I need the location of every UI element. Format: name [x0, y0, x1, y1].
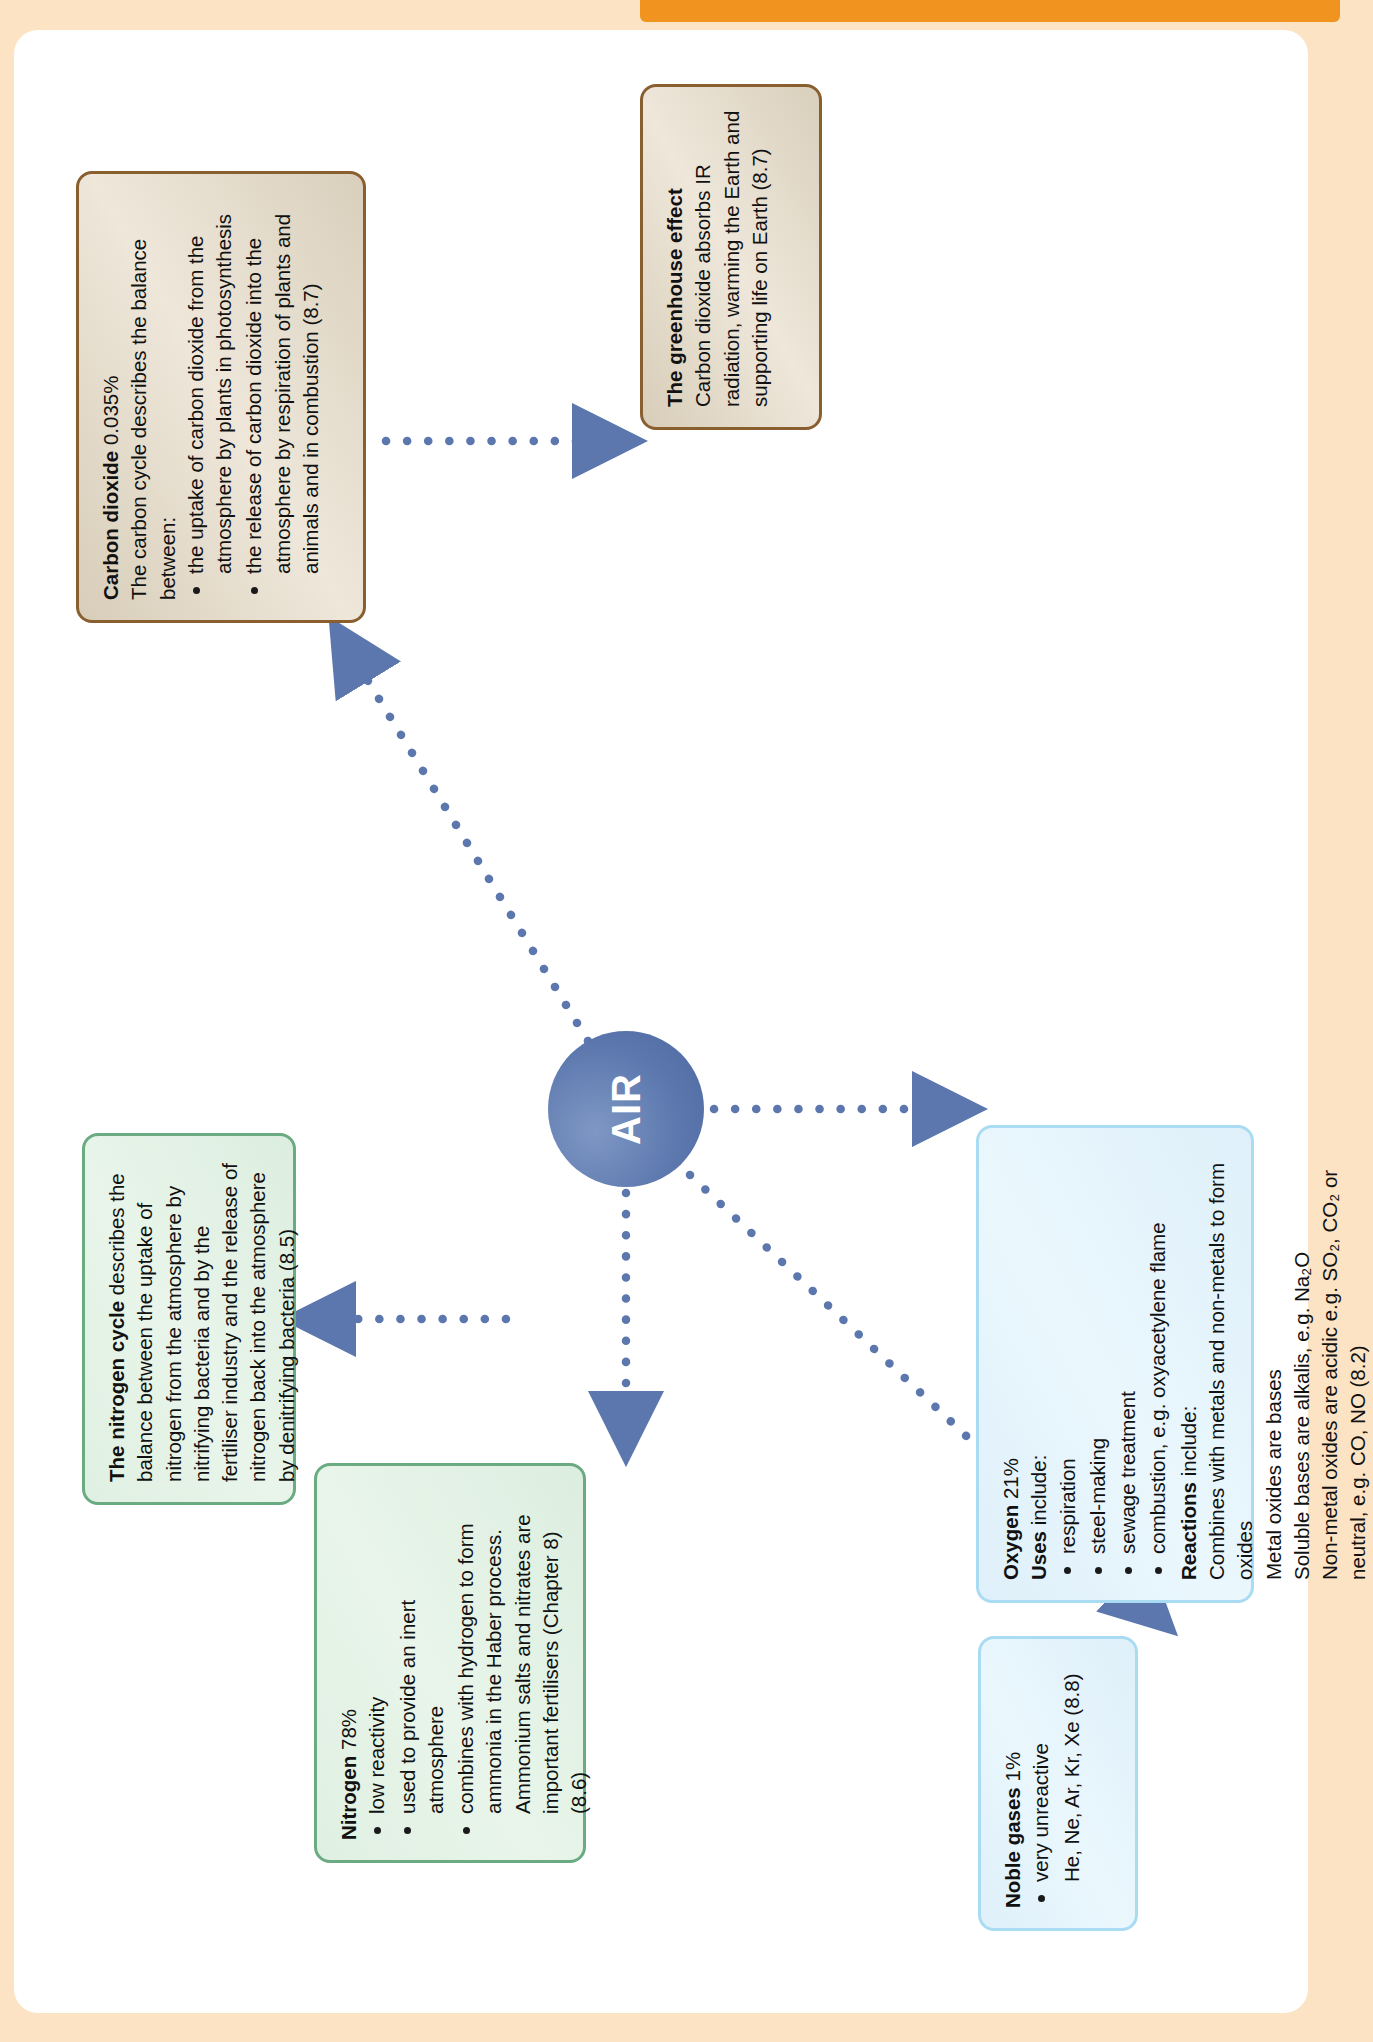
- nitrogen-bullet-list: low reactivity used to provide an inert …: [363, 1486, 593, 1840]
- bullet-dot-icon: [374, 1827, 381, 1834]
- oxygen-uses-rest: include:: [1027, 1455, 1050, 1531]
- greenhouse-heading: The greenhouse effect: [661, 107, 689, 407]
- nitrogen-bullet-3: combines with hydrogen to form ammonia i…: [454, 1514, 590, 1814]
- carbon-dioxide-bullet-2: the release of carbon dioxide into the a…: [242, 214, 322, 574]
- oxygen-title: Oxygen: [999, 1505, 1022, 1580]
- node-nitrogen[interactable]: Nitrogen 78% low reactivity used to prov…: [314, 1463, 586, 1863]
- noble-gases-title: Noble gases: [1001, 1787, 1024, 1908]
- list-item: combustion, e.g. oxyacetylene flame: [1144, 1148, 1172, 1580]
- oxygen-reaction-4: Non-metal oxides are acidic e.g. SO₂, CO…: [1316, 1148, 1373, 1580]
- greenhouse-body: Carbon dioxide absorbs IR radiation, war…: [689, 107, 774, 407]
- list-item: steel-making: [1084, 1148, 1112, 1580]
- oxygen-reactions-rest: include:: [1177, 1406, 1200, 1482]
- oxygen-use-3: sewage treatment: [1116, 1391, 1139, 1554]
- page-tab: [640, 0, 1340, 22]
- oxygen-use-2: steel-making: [1086, 1438, 1109, 1554]
- bullet-dot-icon: [251, 587, 258, 594]
- nitrogen-title-rest: 78%: [337, 1709, 360, 1756]
- nitrogen-cycle-body: balance between the uptake of nitrogen f…: [133, 1163, 297, 1482]
- node-oxygen[interactable]: Oxygen 21% Uses include: respiration ste…: [976, 1125, 1254, 1603]
- oxygen-title-rest: 21%: [999, 1458, 1022, 1505]
- oxygen-reaction-1: Combines with metals and non-metals to f…: [1203, 1148, 1260, 1580]
- oxygen-reactions-label: Reactions: [1177, 1482, 1200, 1580]
- oxygen-use-4: combustion, e.g. oxyacetylene flame: [1146, 1222, 1169, 1554]
- carbon-dioxide-title: Carbon dioxide: [99, 451, 122, 600]
- oxygen-uses-label: Uses: [1027, 1531, 1050, 1580]
- list-item: low reactivity: [363, 1486, 391, 1840]
- nitrogen-heading: Nitrogen 78%: [335, 1486, 363, 1840]
- node-greenhouse-effect[interactable]: The greenhouse effect Carbon dioxide abs…: [640, 84, 822, 430]
- oxygen-use-1: respiration: [1056, 1458, 1079, 1554]
- center-node-air[interactable]: AIR: [548, 1031, 704, 1187]
- list-item: very unreactive: [1027, 1659, 1055, 1908]
- bullet-dot-icon: [1095, 1567, 1102, 1574]
- list-item: the release of carbon dioxide into the a…: [240, 194, 325, 600]
- bullet-dot-icon: [1125, 1567, 1132, 1574]
- nitrogen-bullet-1: low reactivity: [365, 1697, 388, 1814]
- list-item: sewage treatment: [1114, 1148, 1142, 1580]
- nitrogen-title: Nitrogen: [337, 1756, 360, 1840]
- noble-gases-bullet-list: very unreactive: [1027, 1659, 1055, 1908]
- list-item: the uptake of carbon dioxide from the at…: [182, 194, 239, 600]
- list-item: combines with hydrogen to form ammonia i…: [452, 1486, 593, 1840]
- noble-gases-extra: He, Ne, Ar, Kr, Xe (8.8): [1058, 1659, 1086, 1908]
- oxygen-reactions-label-row: Reactions include:: [1175, 1148, 1203, 1580]
- connector-air-to-carbon-dioxide: [340, 635, 588, 1041]
- bullet-dot-icon: [193, 587, 200, 594]
- concept-map-stage: The nitrogen cycle describes the balance…: [14, 30, 1308, 2013]
- noble-gases-bullet-1: very unreactive: [1029, 1743, 1052, 1882]
- nitrogen-cycle-title-rest: describes the: [105, 1173, 128, 1301]
- nitrogen-bullet-2: used to provide an inert atmosphere: [396, 1600, 447, 1814]
- oxygen-heading: Oxygen 21%: [997, 1148, 1025, 1580]
- bullet-dot-icon: [1038, 1895, 1045, 1902]
- carbon-dioxide-title-rest: 0.035%: [99, 376, 122, 451]
- oxygen-reaction-3: Soluble bases are alkalis, e.g. Na₂O: [1288, 1148, 1316, 1580]
- carbon-dioxide-bullet-list: the uptake of carbon dioxide from the at…: [182, 194, 325, 600]
- bullet-dot-icon: [1064, 1567, 1071, 1574]
- bullet-dot-icon: [404, 1827, 411, 1834]
- noble-gases-title-rest: 1%: [1001, 1752, 1024, 1787]
- node-noble-gases[interactable]: Noble gases 1% very unreactive He, Ne, A…: [978, 1636, 1138, 1931]
- oxygen-reaction-2: Metal oxides are bases: [1260, 1148, 1288, 1580]
- node-nitrogen-cycle[interactable]: The nitrogen cycle describes the balance…: [82, 1133, 296, 1505]
- noble-gases-heading: Noble gases 1%: [999, 1659, 1027, 1908]
- bullet-dot-icon: [463, 1827, 470, 1834]
- bullet-dot-icon: [1155, 1567, 1162, 1574]
- list-item: respiration: [1054, 1148, 1082, 1580]
- center-node-label: AIR: [604, 1073, 649, 1145]
- node-carbon-dioxide[interactable]: Carbon dioxide 0.035% The carbon cycle d…: [76, 171, 366, 623]
- greenhouse-title: The greenhouse effect: [663, 188, 686, 407]
- nitrogen-cycle-title: The nitrogen cycle: [105, 1301, 128, 1482]
- oxygen-uses-label-row: Uses include:: [1025, 1148, 1053, 1580]
- nitrogen-cycle-text: The nitrogen cycle describes the balance…: [103, 1156, 301, 1482]
- carbon-dioxide-intro: The carbon cycle describes the balance b…: [125, 194, 182, 600]
- carbon-dioxide-heading: Carbon dioxide 0.035%: [97, 194, 125, 600]
- list-item: used to provide an inert atmosphere: [394, 1486, 451, 1840]
- oxygen-uses-list: respiration steel-making sewage treatmen…: [1054, 1148, 1173, 1580]
- carbon-dioxide-bullet-1: the uptake of carbon dioxide from the at…: [184, 214, 235, 574]
